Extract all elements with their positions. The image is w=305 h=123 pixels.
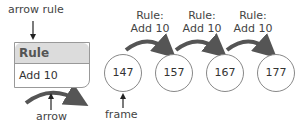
frame-circle-4: 177 bbox=[257, 54, 295, 92]
frame-circle-2: 157 bbox=[155, 54, 193, 92]
frame-circle-1: 147 bbox=[104, 54, 142, 92]
rule-box: Rule Add 10 bbox=[14, 42, 90, 88]
rule-label-1-line2: Add 10 bbox=[128, 22, 172, 35]
rule-arrow-1-icon bbox=[126, 42, 167, 51]
frame-label: frame bbox=[105, 108, 138, 121]
rule-label-1: Rule: Add 10 bbox=[128, 9, 172, 35]
rule-label-3-line1: Rule: bbox=[231, 9, 275, 22]
rule-label-3: Rule: Add 10 bbox=[231, 9, 275, 35]
arrow-label: arrow bbox=[36, 110, 67, 123]
rule-label-2: Rule: Add 10 bbox=[180, 9, 224, 35]
rule-label-3-line2: Add 10 bbox=[231, 22, 275, 35]
rule-label-2-line2: Add 10 bbox=[180, 22, 224, 35]
rule-arrow-2-icon bbox=[176, 42, 218, 51]
rule-arrow-3-icon bbox=[227, 42, 268, 51]
rule-label-1-line1: Rule: bbox=[128, 9, 172, 22]
arrow-rule-label: arrow rule bbox=[8, 3, 64, 16]
frame-circle-3: 167 bbox=[206, 54, 244, 92]
rule-box-body: Add 10 bbox=[15, 64, 89, 88]
rule-box-header: Rule bbox=[15, 43, 89, 64]
rule-label-2-line1: Rule: bbox=[180, 9, 224, 22]
legend-curved-arrow-icon bbox=[26, 93, 78, 103]
